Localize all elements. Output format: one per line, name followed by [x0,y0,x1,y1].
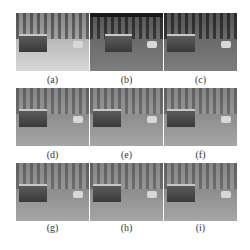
truck [105,34,133,52]
panel-f-image [164,88,237,146]
panel-f-label: (f) [164,149,237,161]
car [73,41,83,48]
panel-b-label: (b) [90,74,163,86]
panel-i-image [164,163,237,221]
truck [19,184,47,202]
truck [19,109,47,127]
truck [167,109,195,127]
image-grid-figure: (a) (b) (c) (d) (e) (f [0,0,250,250]
panel-c-label: (c) [164,74,237,86]
car [147,191,157,198]
car [221,116,231,123]
car [221,191,231,198]
car [147,116,157,123]
panel-e-image [90,88,163,146]
car [221,41,231,48]
car [73,191,83,198]
panel-d-label: (d) [16,149,89,161]
panel-h-image [90,163,163,221]
dark-border-strip [90,13,163,17]
truck [93,109,121,127]
panel-e-label: (e) [90,149,163,161]
panel-a-image [16,13,89,71]
panel-c-image [164,13,237,71]
panel-a-label: (a) [16,74,89,86]
truck [167,184,195,202]
truck [167,34,195,52]
truck [19,34,47,52]
panel-i-label: (i) [164,222,237,234]
panel-d-image [16,88,89,146]
truck [93,184,121,202]
panel-b-image [90,13,163,71]
car [73,116,83,123]
panel-g-image [16,163,89,221]
car [147,41,157,48]
panel-g-label: (g) [16,222,89,234]
panel-h-label: (h) [90,222,163,234]
